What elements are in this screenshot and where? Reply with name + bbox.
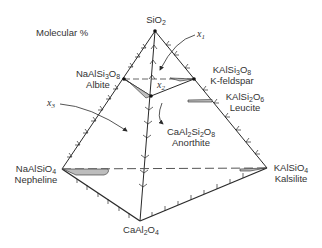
x1-arrow	[160, 35, 195, 70]
point-x2: x2	[157, 79, 165, 90]
diagram-title: Molecular %	[36, 27, 88, 38]
point-x1: x1	[197, 28, 205, 39]
plagioclase-shade	[124, 79, 151, 98]
label-kalsilite: KAlSiO4 Kalsilite	[268, 162, 314, 184]
edge-nepheline-cal	[62, 169, 140, 221]
label-kfeldspar: KAlSi3O8 K-feldspar	[203, 64, 261, 86]
point-x3: x3	[47, 97, 55, 108]
label-anorthite: CaAl2Si2O8 Anorthite	[161, 126, 221, 148]
anorthite-pointer	[159, 103, 163, 124]
label-leucite: KAlSi2O6 Leucite	[221, 91, 269, 113]
label-calcium-aluminate: CaAl2O4	[118, 224, 164, 235]
leucite-bar	[188, 100, 212, 103]
label-albite: NaAlSi3O8 Albite	[73, 68, 123, 90]
edge-silica-cal	[140, 31, 155, 221]
edge-silica-nepheline	[62, 31, 155, 169]
label-nepheline: NaAlSiO4 Nepheline	[10, 163, 62, 185]
label-silica: SiO2	[140, 14, 172, 25]
edge-kalsilite-cal	[140, 168, 267, 221]
